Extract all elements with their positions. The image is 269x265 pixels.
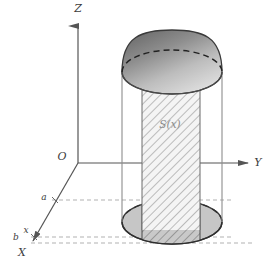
dome-cap <box>122 30 222 94</box>
z-axis-label: Z <box>73 2 82 15</box>
solid-of-revolution-diagram: Z Y X O a b x S(x) <box>0 0 269 265</box>
mark-label-b: b <box>13 232 19 242</box>
origin-label: O <box>57 150 66 163</box>
dome-surface <box>122 30 222 94</box>
cross-section-label: S(x) <box>159 118 180 130</box>
mark-label-a: a <box>41 192 46 202</box>
x-axis-label: X <box>17 246 27 259</box>
mark-label-x: x <box>23 225 28 235</box>
figure-container: Z Y X O a b x S(x) <box>0 0 269 265</box>
